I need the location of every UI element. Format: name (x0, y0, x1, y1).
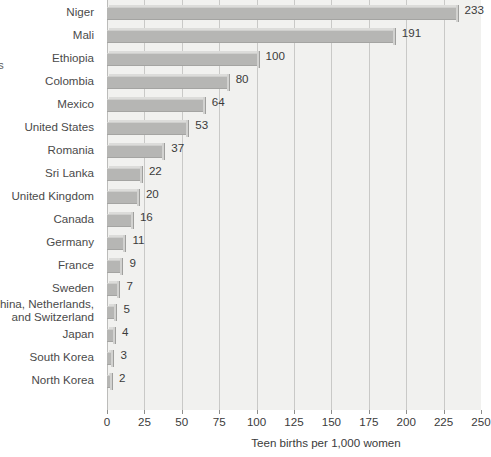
bar[interactable] (107, 327, 117, 344)
bar[interactable] (107, 235, 127, 252)
bar-row[interactable]: Niger233 (0, 1, 486, 24)
bar-side-face (111, 350, 114, 367)
category-label: Mali (0, 29, 94, 42)
x-tick-75 (219, 410, 220, 414)
x-tick-label-175: 175 (359, 415, 378, 428)
bar-face (107, 168, 140, 181)
category-label: South Korea (0, 351, 94, 364)
bar-top-face (109, 74, 229, 76)
bar-face (107, 306, 114, 319)
bar[interactable] (107, 97, 207, 114)
bar[interactable] (107, 166, 144, 183)
bar[interactable] (107, 51, 261, 68)
bar-row[interactable]: Germany11 (0, 231, 486, 254)
bar-value-label: 37 (171, 141, 184, 154)
bar-value-label: 80 (236, 72, 249, 85)
bar-value-label: 64 (212, 95, 225, 108)
bar[interactable] (107, 350, 115, 367)
bar-row[interactable]: Romania37 (0, 139, 486, 162)
bar-row[interactable]: Canada16 (0, 208, 486, 231)
x-axis-title: Teen births per 1,000 women (0, 436, 486, 449)
bar-side-face (117, 281, 120, 298)
bar-face (107, 30, 393, 43)
x-tick-label-200: 200 (397, 415, 416, 428)
category-label: Colombia (0, 75, 94, 88)
bar[interactable] (107, 373, 114, 390)
bar-value-label: 4 (122, 325, 128, 338)
bar-row[interactable]: United States53 (0, 116, 486, 139)
bar-value-label: 53 (195, 118, 208, 131)
bar[interactable] (107, 5, 460, 22)
x-tick-label-225: 225 (434, 415, 453, 428)
bar-row[interactable]: North Korea2 (0, 369, 486, 392)
category-label: Ethiopia (0, 52, 94, 65)
bar[interactable] (107, 281, 121, 298)
bar[interactable] (107, 120, 190, 137)
bar-row[interactable]: South Korea3 (0, 346, 486, 369)
bar-side-face (257, 51, 260, 68)
category-label: Sri Lanka (0, 167, 94, 180)
bar[interactable] (107, 304, 118, 321)
category-label: Canada (0, 213, 94, 226)
x-tick-100 (257, 410, 258, 414)
x-tick-label-75: 75 (213, 415, 226, 428)
bar-face (107, 76, 227, 89)
bar-side-face (227, 74, 230, 91)
bar-side-face (131, 212, 134, 229)
bar-side-face (120, 258, 123, 275)
x-tick-label-100: 100 (247, 415, 266, 428)
x-tick-label-0: 0 (104, 415, 110, 428)
category-label: United Kingdom (0, 190, 94, 203)
bar-row[interactable]: Japan4 (0, 323, 486, 346)
x-tick-label-250: 250 (471, 415, 490, 428)
bar-top-face (109, 120, 188, 122)
bar[interactable] (107, 189, 141, 206)
bar-face (107, 214, 131, 227)
x-tick-175 (369, 410, 370, 414)
bar-row[interactable]: Mali191 (0, 24, 486, 47)
bar-row[interactable]: France9 (0, 254, 486, 277)
bar-row[interactable]: United Kingdom20 (0, 185, 486, 208)
category-label: United States (0, 121, 94, 134)
bar-value-label: 191 (402, 26, 421, 39)
x-tick-25 (144, 410, 145, 414)
bar-row[interactable]: Sri Lanka22 (0, 162, 486, 185)
bar-top-face (109, 5, 458, 7)
x-tick-label-125: 125 (284, 415, 303, 428)
bar-face (107, 145, 162, 158)
bar-face (107, 7, 456, 20)
x-tick-0 (107, 410, 108, 414)
bar-row[interactable]: Mexico64 (0, 93, 486, 116)
bar-face (107, 237, 123, 250)
bar-value-label: 16 (140, 210, 153, 223)
category-label: Germany (0, 236, 94, 249)
bar-face (107, 191, 137, 204)
x-tick-label-150: 150 (322, 415, 341, 428)
bar-row[interactable]: China, Netherlands,and Switzerland5 (0, 300, 486, 323)
bar-side-face (393, 28, 396, 45)
x-tick-150 (331, 410, 332, 414)
category-label: Mexico (0, 98, 94, 111)
bar-row[interactable]: Colombia80 (0, 70, 486, 93)
bar-top-face (109, 212, 133, 214)
bar-top-face (109, 189, 139, 191)
bar-face (107, 99, 203, 112)
bar[interactable] (107, 258, 124, 275)
bar-side-face (137, 189, 140, 206)
bar[interactable] (107, 212, 135, 229)
x-axis-title-text: Teen births per 1,000 women (251, 436, 401, 449)
x-tick-250 (481, 410, 482, 414)
bar-side-face (162, 143, 165, 160)
category-label: Sweden (0, 282, 94, 295)
bar-row[interactable]: Ethiopia100 (0, 47, 486, 70)
bar[interactable] (107, 74, 231, 91)
bar-side-face (203, 97, 206, 114)
bar[interactable] (107, 28, 397, 45)
x-tick-225 (444, 410, 445, 414)
bar-side-face (114, 304, 117, 321)
bar-value-label: 3 (120, 348, 126, 361)
category-label: Romania (0, 144, 94, 157)
bar[interactable] (107, 143, 166, 160)
bar-value-label: 5 (123, 302, 129, 315)
x-tick-label-25: 25 (138, 415, 151, 428)
